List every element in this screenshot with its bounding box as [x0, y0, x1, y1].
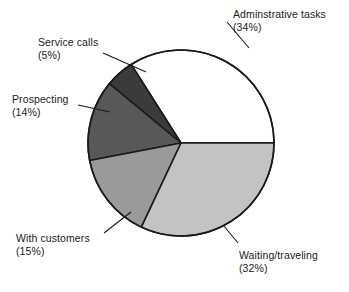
leader-line-customers — [104, 212, 131, 233]
slice-label-name: With customers — [16, 232, 90, 245]
slice-label-percent: (14%) — [12, 106, 69, 119]
slice-label-with-customers: With customers (15%) — [16, 232, 90, 258]
leader-line-waiting — [224, 226, 238, 243]
pie-chart: Adminstrative tasks (34%) Service calls … — [0, 0, 349, 292]
slice-label-waiting-traveling: Waiting/traveling (32%) — [239, 249, 318, 275]
slice-label-prospecting: Prospecting (14%) — [12, 93, 69, 119]
slice-label-percent: (34%) — [233, 21, 326, 34]
slice-label-percent: (5%) — [38, 49, 98, 62]
slice-label-percent: (32%) — [239, 262, 318, 275]
slice-label-name: Service calls — [38, 36, 98, 49]
slice-label-name: Prospecting — [12, 93, 69, 106]
pie-slices — [88, 50, 274, 236]
slice-label-name: Adminstrative tasks — [233, 8, 326, 21]
slice-label-service-calls: Service calls (5%) — [38, 36, 98, 62]
slice-label-adminstrative-tasks: Adminstrative tasks (34%) — [233, 8, 326, 34]
slice-label-percent: (15%) — [16, 245, 90, 258]
slice-label-name: Waiting/traveling — [239, 249, 318, 262]
